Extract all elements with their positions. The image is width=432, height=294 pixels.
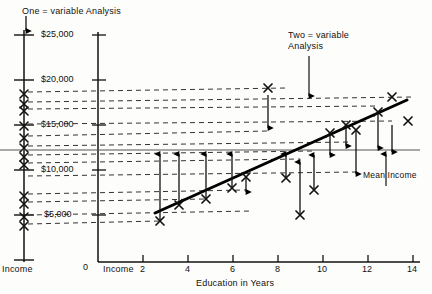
x-tick-label-6: 6 xyxy=(230,264,235,274)
x-tick-label-10: 10 xyxy=(317,264,327,274)
y-tick-label-15000: $15,000 xyxy=(41,119,74,129)
x-tick-label-2: 2 xyxy=(140,264,145,274)
one-variable-annotation: One = variable Analysis xyxy=(22,6,121,16)
mean-income-label: Mean Income xyxy=(363,170,417,180)
x-axis-title: Education in Years xyxy=(196,278,274,288)
right-axis-title: Income xyxy=(103,264,134,274)
x-tick-label-4: 4 xyxy=(185,264,190,274)
regression-line xyxy=(155,100,407,213)
y-tick-label-25000: $25,000 xyxy=(41,29,74,39)
figure-canvas: One = variable Analysis Two = variable A… xyxy=(0,0,432,294)
x-tick-label-8: 8 xyxy=(275,264,280,274)
two-variable-line-2: Analysis xyxy=(288,41,323,51)
statistics-figure xyxy=(0,0,432,294)
left-axis-title: Income xyxy=(2,264,33,274)
x-tick-label-14: 14 xyxy=(407,264,417,274)
y-tick-label-10000: $10,000 xyxy=(41,164,74,174)
y-tick-label-20000: $20,000 xyxy=(41,74,74,84)
two-variable-annotation: Two = variable Analysis xyxy=(288,30,349,52)
two-variable-line-1: Two = variable xyxy=(288,30,349,40)
x-tick-label-12: 12 xyxy=(362,264,372,274)
y-tick-label-0: 0 xyxy=(83,262,88,272)
projection-gridlines xyxy=(28,88,412,224)
y-tick-label-5000: $5,000 xyxy=(44,209,72,219)
right-panel-axes xyxy=(92,32,420,262)
